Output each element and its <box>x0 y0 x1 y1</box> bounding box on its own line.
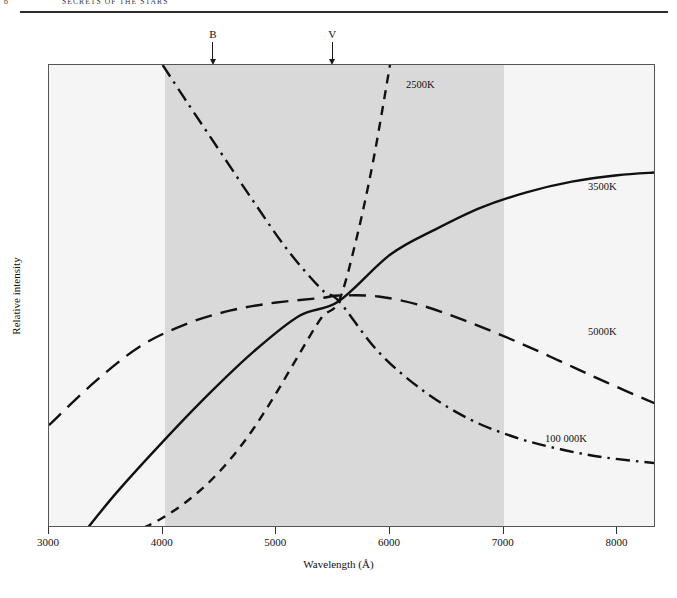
band-marker-v-arrow-stem <box>332 42 333 59</box>
curve-label-2500k: 2500K <box>406 79 435 90</box>
x-axis-tick-label: 6000 <box>378 536 400 548</box>
x-axis-tick-label: 5000 <box>264 536 286 548</box>
curve-3500k <box>88 172 655 527</box>
x-axis-tick <box>389 527 390 534</box>
curve-label-3500k: 3500K <box>588 181 617 192</box>
x-axis-tick-label: 3000 <box>37 536 59 548</box>
curve-5000k <box>49 295 655 425</box>
header-rule <box>20 11 668 13</box>
band-marker-v: V <box>325 28 339 65</box>
x-axis-tick <box>616 527 617 534</box>
curve-100000k <box>163 65 655 463</box>
x-axis-title: Wavelength (Å) <box>0 558 677 570</box>
y-axis-title: Relative intensity <box>10 236 22 356</box>
curve-label-5000k: 5000K <box>588 326 617 337</box>
figure-page: 6 SECRETS OF THE STARS B V 2500K 3500K 5… <box>0 0 677 598</box>
x-axis-tick-label: 8000 <box>605 536 627 548</box>
curves-layer <box>49 65 655 527</box>
x-axis-tick <box>162 527 163 534</box>
x-axis-tick-label: 4000 <box>151 536 173 548</box>
band-marker-b-arrow-stem <box>212 42 213 59</box>
band-marker-b-label: B <box>206 28 220 40</box>
x-axis-tick <box>503 527 504 534</box>
curve-label-100000k: 100 000K <box>545 433 587 444</box>
band-marker-v-label: V <box>325 28 339 40</box>
x-axis-tick-label: 7000 <box>492 536 514 548</box>
page-folio: 6 <box>4 0 8 6</box>
plot-area <box>48 64 655 527</box>
x-axis-tick <box>275 527 276 534</box>
x-axis-tick <box>48 527 49 534</box>
chapter-title: SECRETS OF THE STARS <box>62 0 169 6</box>
band-marker-b: B <box>206 28 220 65</box>
